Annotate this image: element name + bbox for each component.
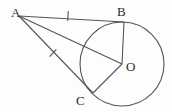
tick-on-AC-icon <box>50 49 57 56</box>
segment-AO <box>19 16 122 64</box>
tick-on-AB-icon <box>68 11 69 21</box>
vertex-label-C: C <box>76 94 85 107</box>
vertex-label-O: O <box>126 60 135 73</box>
vertex-label-A: A <box>11 6 20 19</box>
segment-OC <box>93 64 122 93</box>
segment-AB <box>19 16 124 22</box>
segment-AC <box>19 16 93 93</box>
vertex-label-B: B <box>117 5 126 18</box>
geometry-figure: A B O C <box>0 0 172 112</box>
segment-OB <box>122 22 124 64</box>
geometry-canvas <box>0 0 172 112</box>
